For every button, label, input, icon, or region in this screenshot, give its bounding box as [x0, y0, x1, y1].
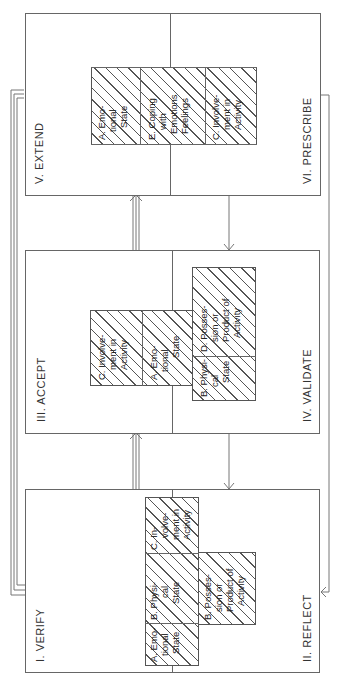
cell-divider: [140, 67, 141, 145]
stage-prescribe-label: VI. PRESCRIBE: [301, 97, 313, 184]
cell-divider: [145, 553, 199, 554]
stage-extend-label: V. EXTEND: [33, 122, 45, 184]
stage-validate-label: IV. VALIDATE: [301, 349, 313, 422]
cell-involvement-in-activity: C. Involve-ment inActivity: [96, 335, 129, 380]
cell-possession-or-product: B. Posses-sion orProduct ofActivity: [202, 569, 246, 620]
cell-coping-with-emotions: E. CopingwithEmotionsFeelings: [146, 94, 190, 140]
cell-divider: [205, 67, 206, 145]
table-border: [91, 67, 257, 68]
stage-verify-label: I. VERIFY: [34, 609, 46, 662]
cell-possession-or-product: D. Posses-sion orProduct ofActivity: [198, 299, 242, 352]
cell-emotional-state: A. Emo-tionalState: [148, 628, 181, 662]
cell-involvement-in-activity: C. Involve-ment inActivity: [210, 95, 243, 140]
stage-reflect-label: II. REFLECT: [301, 594, 313, 662]
cell-divider: [142, 310, 143, 386]
cell-divider: [145, 623, 199, 624]
cell-physical-state: B. Physi-calState: [148, 582, 181, 620]
cell-divider: [192, 356, 256, 357]
stage-accept-label: III. ACCEPT: [35, 357, 47, 422]
cell-physical-state: B. Physi-calState: [198, 359, 231, 397]
table-border: [91, 144, 257, 145]
cell-emotional-state: A. Emo-tionalState: [96, 106, 129, 140]
cell-emotional-state: A. Emo-tionalState: [148, 336, 181, 380]
cell-involvement-in-activity: C. In-volve-ment inActivity: [148, 509, 192, 550]
